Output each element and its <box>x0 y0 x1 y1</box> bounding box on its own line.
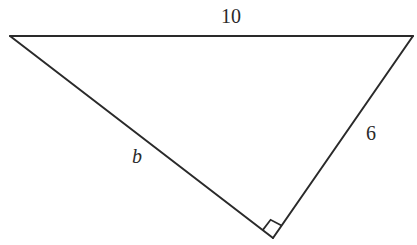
right-leg-side <box>273 36 413 238</box>
left-leg-label: b <box>132 146 142 166</box>
hypotenuse-label: 10 <box>221 6 241 26</box>
triangle-diagram <box>0 0 417 245</box>
right-leg-label: 6 <box>366 123 376 143</box>
left-leg-side <box>10 36 273 238</box>
